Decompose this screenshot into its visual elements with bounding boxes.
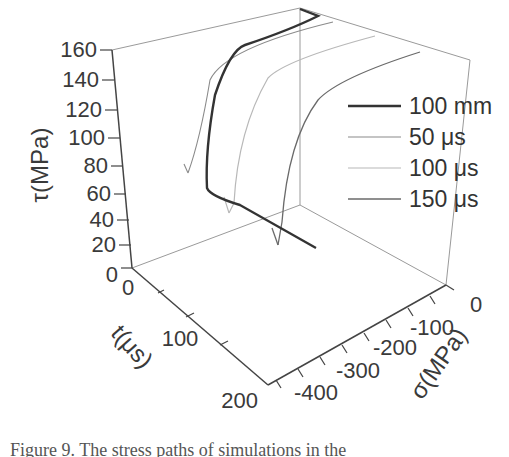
legend-label-150us: 150 μs [409, 186, 479, 212]
sigma-axis: 0 -100 -200 -300 -400 σ(MPa) [268, 285, 482, 405]
tau-tick-20: 20 [92, 232, 116, 257]
t-axis: 0 100 200 t(μs) [106, 268, 268, 413]
tau-tick-120: 120 [65, 97, 102, 122]
legend-label-50us: 50 μs [409, 124, 466, 150]
tau-tick-80: 80 [84, 153, 108, 178]
chart-3d: 160 140 120 100 80 60 40 20 0 τ(MPa) 0 1… [0, 0, 509, 457]
tau-tick-40: 40 [90, 207, 114, 232]
t-tick-100: 100 [162, 326, 199, 351]
tau-tick-0: 0 [106, 262, 118, 287]
tau-tick-100: 100 [68, 125, 105, 150]
figure-caption: Figure 9. The stress paths of simulation… [10, 438, 509, 457]
tau-tick-60: 60 [87, 181, 111, 206]
t-axis-title: t(μs) [106, 319, 159, 373]
legend-label-100mm: 100 mm [409, 93, 492, 119]
legend-label-100us: 100 μs [409, 155, 479, 181]
tau-tick-140: 140 [62, 67, 99, 92]
t-tick-0: 0 [122, 275, 134, 300]
sigma-tick-neg400: -400 [294, 380, 338, 405]
tau-tick-160: 160 [60, 37, 97, 62]
tau-axis: 160 140 120 100 80 60 40 20 0 τ(MPa) [26, 37, 132, 287]
sigma-tick-0: 0 [470, 292, 482, 317]
legend: 100 mm 50 μs 100 μs 150 μs [348, 93, 492, 212]
sigma-tick-neg300: -300 [336, 358, 380, 383]
sigma-tick-neg200: -200 [373, 335, 417, 360]
t-tick-200: 200 [221, 388, 258, 413]
series-150us [272, 52, 420, 245]
tau-axis-title: τ(MPa) [26, 128, 53, 203]
